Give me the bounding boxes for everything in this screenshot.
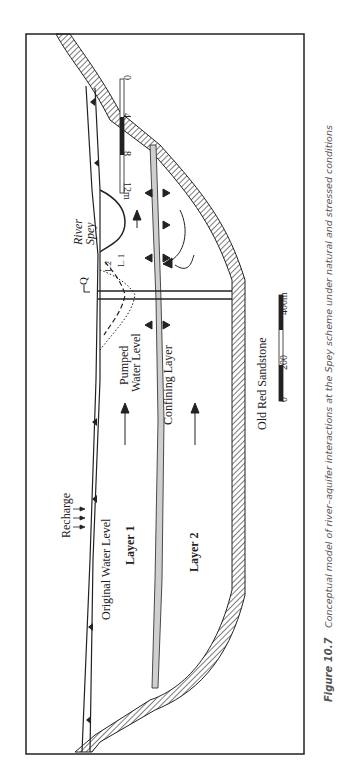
vertical-scale-tick-4: 4 (122, 113, 133, 118)
horizontal-scale-tick-400: 400m (278, 292, 289, 315)
label-pumped-water-level-2: Water Level (129, 333, 143, 392)
vertical-scale-tick-12: 12m (122, 182, 133, 200)
bedrock-old-red-sandstone (56, 34, 245, 752)
horizontal-scale-tick-200: 200 (278, 355, 289, 370)
label-layer-2: Layer 2 (187, 533, 201, 572)
vertical-scale-tick-0: 0 (122, 75, 133, 80)
recharge-arrows (73, 507, 85, 529)
diagram-canvas: 0 4 8 12m 0 200 400m Old Red Sandstone C… (0, 0, 342, 766)
label-l2: L.2 (104, 261, 113, 272)
label-spey: Spey (83, 222, 97, 245)
label-confining-layer: Confining Layer (161, 345, 175, 425)
figure-number: Figure 10.7 (323, 638, 334, 702)
vertical-scale-bar (120, 79, 124, 193)
horizontal-scale-tick-0: 0 (278, 397, 289, 402)
figure-caption: Conceptual model of river–aquifer intera… (323, 125, 334, 628)
original-water-level-line (82, 86, 98, 752)
label-recharge: Recharge (59, 493, 73, 538)
vertical-scale-tick-8: 8 (122, 151, 133, 156)
label-old-red-sandstone: Old Red Sandstone (255, 337, 269, 430)
label-original-water-level: Original Water Level (99, 518, 113, 620)
label-l1: L. 1 (117, 254, 126, 267)
label-q: Q (77, 277, 89, 285)
label-layer-1: Layer 1 (123, 526, 137, 565)
river-spey-channel (100, 190, 125, 252)
